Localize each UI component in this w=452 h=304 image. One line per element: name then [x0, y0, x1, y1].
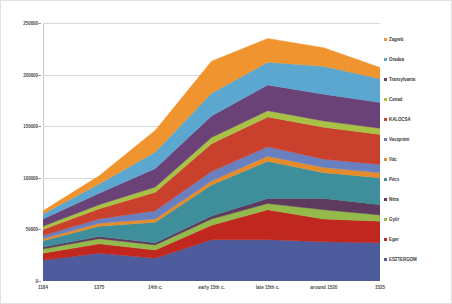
legend-swatch-icon: [384, 158, 387, 161]
legend-swatch-icon: [384, 38, 387, 41]
legend-item[interactable]: Győr: [384, 215, 399, 224]
legend-item-label: Oradea: [389, 57, 404, 62]
legend-item-label: Eger: [389, 237, 399, 242]
legend-item-label: Zagreb: [389, 37, 403, 42]
legend-swatch-icon: [384, 118, 387, 121]
legend-item-label: Transylvania: [389, 77, 415, 82]
y-axis-tick-label: 200000: [23, 72, 38, 77]
legend-item-label: Győr: [389, 217, 399, 222]
x-axis: 1184137514th c.early 15th c.late 15th c.…: [43, 283, 380, 299]
y-axis-tick-label: 150000: [23, 124, 38, 129]
x-axis-tick-label: 1375: [94, 285, 104, 290]
legend-item-label: Pécs: [389, 177, 399, 182]
legend-item-label: Nitra: [389, 197, 399, 202]
y-axis-tick-mark: [38, 126, 41, 127]
legend-item-label: Cenad: [389, 97, 402, 102]
y-axis-tick-mark: [38, 178, 41, 179]
y-axis: 050000100000150000200000250000: [1, 23, 41, 281]
y-axis-tick-mark: [38, 75, 41, 76]
legend-swatch-icon: [384, 198, 387, 201]
y-axis-tick-label: 50000: [26, 227, 38, 232]
legend-item[interactable]: ESZTERGOM: [384, 255, 417, 264]
x-axis-tick-label: early 15th c.: [198, 285, 225, 290]
chart-plot-area: [43, 23, 380, 281]
y-axis-tick-mark: [38, 281, 41, 282]
x-axis-tick-label: 14th c.: [148, 285, 163, 290]
legend-swatch-icon: [384, 258, 387, 261]
x-axis-tick-label: 1525: [375, 285, 385, 290]
legend-item[interactable]: Cenad: [384, 95, 402, 104]
legend-swatch-icon: [384, 98, 387, 101]
legend-item-label: KALOCSA: [389, 117, 411, 122]
legend-item[interactable]: Vác: [384, 155, 397, 164]
legend-item-label: Veszprém: [389, 137, 409, 142]
legend-item[interactable]: Zagreb: [384, 35, 403, 44]
legend-swatch-icon: [384, 58, 387, 61]
legend-item[interactable]: Veszprém: [384, 135, 409, 144]
y-axis-tick-label: 250000: [23, 21, 38, 26]
chart-legend: ZagrebOradeaTransylvaniaCenadKALOCSAVesz…: [384, 35, 452, 275]
chart-screenshot: 050000100000150000200000250000 118413751…: [0, 0, 452, 304]
legend-swatch-icon: [384, 238, 387, 241]
legend-swatch-icon: [384, 178, 387, 181]
legend-swatch-icon: [384, 138, 387, 141]
legend-swatch-icon: [384, 218, 387, 221]
legend-swatch-icon: [384, 78, 387, 81]
x-axis-tick-label: 1184: [38, 285, 48, 290]
legend-item[interactable]: Eger: [384, 235, 399, 244]
x-axis-tick-label: around 1520: [310, 285, 337, 290]
legend-item-label: ESZTERGOM: [389, 257, 417, 262]
x-axis-tick-label: late 15th c.: [256, 285, 280, 290]
legend-item[interactable]: Oradea: [384, 55, 404, 64]
stacked-area-series: [43, 23, 380, 281]
y-axis-tick-mark: [38, 23, 41, 24]
y-axis-tick-mark: [38, 229, 41, 230]
legend-item[interactable]: Transylvania: [384, 75, 415, 84]
legend-item[interactable]: Nitra: [384, 195, 399, 204]
legend-item-label: Vác: [389, 157, 397, 162]
y-axis-tick-label: 100000: [23, 175, 38, 180]
legend-item[interactable]: Pécs: [384, 175, 399, 184]
legend-item[interactable]: KALOCSA: [384, 115, 411, 124]
